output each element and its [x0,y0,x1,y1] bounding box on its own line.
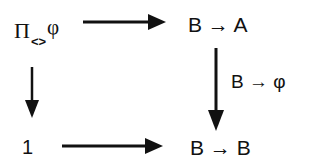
edge-label-right-text: B → φ [231,71,286,92]
node-bottom-left: 1 [22,137,33,157]
arrow-right-vertical [208,48,224,131]
node-bottom-right-left: B [190,136,204,159]
node-top-right: B → A [188,14,248,35]
pi-symbol: Π [14,18,30,43]
phi-superscript: φ [47,15,59,39]
arrow-left-vertical [25,67,39,118]
edge-label-right: B → φ [231,72,286,91]
implication-arrow: → [210,136,231,159]
node-top-right-left: B [188,13,202,36]
terminal-object: 1 [22,136,33,158]
node-top-left: Π<>φ [14,20,59,42]
arrow-bottom-horizontal [62,138,163,154]
arrow-top-horizontal [83,14,166,30]
implication-arrow: → [208,13,229,36]
node-top-right-right: A [234,13,248,36]
node-bottom-right: B → B [190,137,251,158]
node-bottom-right-right: B [237,136,251,159]
subscript-angle-brackets: <> [31,34,46,49]
